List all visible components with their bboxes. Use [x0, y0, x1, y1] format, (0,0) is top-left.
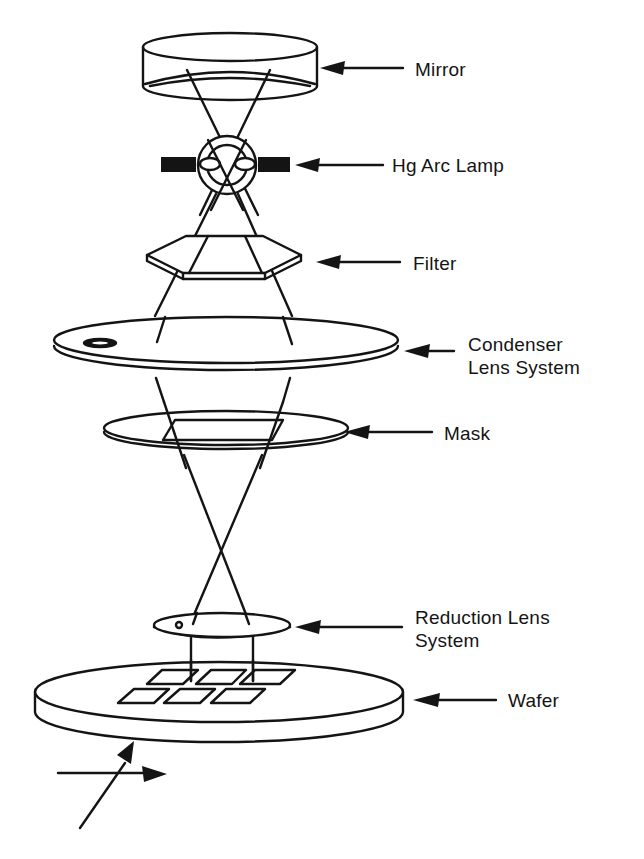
xy-stage-arrows-icon: [58, 741, 167, 828]
hg-arc-lamp-shape: [161, 136, 290, 210]
reduction-lens-label-line2: System: [415, 630, 480, 652]
condenser-lens-shape: [54, 317, 398, 370]
light-rays-reduction: [184, 455, 262, 617]
filter-label: Filter: [413, 253, 456, 275]
mask-shape: [104, 402, 348, 468]
filter-shape: [147, 236, 301, 279]
condenser-label-line2: Lens System: [468, 357, 580, 379]
reduction-lens-label-line1: Reduction Lens: [415, 607, 550, 629]
wafer-shape: [35, 660, 403, 742]
wafer-label: Wafer: [508, 690, 559, 712]
condenser-label-line1: Condenser: [468, 334, 563, 356]
mirror-label: Mirror: [415, 59, 466, 81]
light-rays-mask: [156, 378, 290, 402]
hg-arc-lamp-label: Hg Arc Lamp: [392, 155, 504, 177]
mirror-shape: [143, 33, 317, 100]
lithography-diagram: Mirror Hg Arc Lamp Filter Condenser Lens…: [0, 0, 644, 859]
mask-label: Mask: [444, 423, 490, 445]
